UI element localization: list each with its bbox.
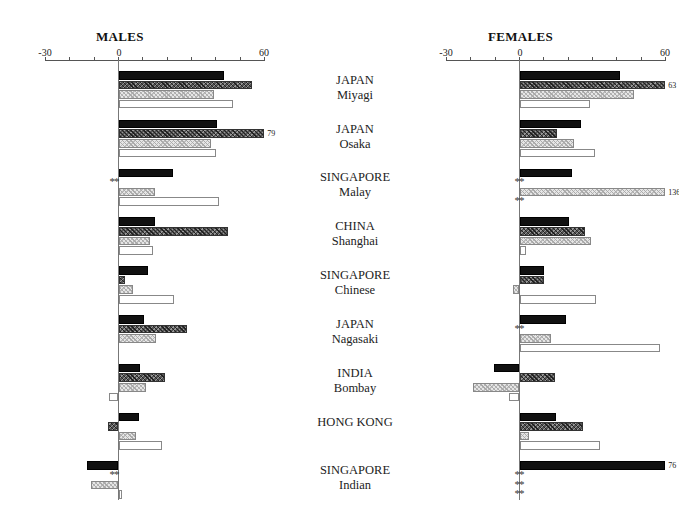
bar-value-label: 79 xyxy=(267,129,275,138)
axis-tick xyxy=(568,57,569,61)
bar-light-stippled xyxy=(119,139,211,148)
bar-dark-hatched xyxy=(520,129,558,138)
bar-light-stippled xyxy=(119,188,155,197)
bar-white xyxy=(119,100,233,109)
bar-dark-hatched xyxy=(108,422,119,431)
group-label: JAPANMiyagi xyxy=(290,73,420,103)
bar-black xyxy=(119,169,174,178)
females-zero-line xyxy=(519,60,520,500)
group-label: SINGAPOREChinese xyxy=(290,268,420,298)
bar-light-stippled xyxy=(520,139,575,148)
bar-black xyxy=(520,413,556,422)
bar-dark-hatched xyxy=(520,373,555,382)
bar-light-stippled xyxy=(119,432,136,441)
bar-light-stippled xyxy=(119,383,147,392)
females-panel-title: FEMALES xyxy=(488,29,553,45)
bar-light-stippled xyxy=(520,90,634,99)
axis-tick xyxy=(641,57,642,61)
males-x-axis xyxy=(45,60,265,61)
axis-tick xyxy=(191,57,192,61)
bar-white xyxy=(520,100,590,109)
bar-dark-hatched xyxy=(520,227,586,236)
axis-tick xyxy=(665,57,666,61)
bar-light-stippled xyxy=(520,188,666,197)
bar-black xyxy=(494,364,520,373)
group-label: CHINAShanghai xyxy=(290,219,420,249)
bar-white xyxy=(119,149,216,158)
bar-light-stippled xyxy=(91,481,119,490)
bar-white xyxy=(520,441,600,450)
females-x-axis xyxy=(446,60,666,61)
axis-tick xyxy=(215,57,216,61)
axis-tick xyxy=(543,57,544,61)
bar-dark-hatched xyxy=(119,81,253,90)
bar-light-stippled xyxy=(119,334,157,343)
bar-light-stippled xyxy=(520,432,530,441)
bar-black xyxy=(119,364,141,373)
axis-tick xyxy=(264,57,265,61)
bar-dark-hatched xyxy=(119,373,165,382)
bar-white xyxy=(119,441,163,450)
group-label: INDIABombay xyxy=(290,366,420,396)
bar-black xyxy=(119,315,145,324)
bar-light-stippled xyxy=(520,237,592,246)
bar-dark-hatched xyxy=(520,422,583,431)
bar-white xyxy=(509,393,520,402)
bar-white xyxy=(520,295,597,304)
bar-white xyxy=(119,490,123,499)
axis-tick xyxy=(616,57,617,61)
bar-light-stippled xyxy=(473,383,519,392)
bar-dark-hatched xyxy=(520,81,666,90)
bar-black xyxy=(87,461,119,470)
axis-tick xyxy=(592,57,593,61)
bar-white xyxy=(119,246,153,255)
axis-tick xyxy=(94,57,95,61)
bar-black xyxy=(520,315,566,324)
bar-black xyxy=(520,120,582,129)
bar-black xyxy=(119,120,217,129)
bar-white xyxy=(520,344,661,353)
bar-black xyxy=(520,217,570,226)
bar-dark-hatched xyxy=(119,227,228,236)
bar-white xyxy=(119,197,220,206)
axis-tick xyxy=(45,57,46,61)
group-label: SINGAPOREMalay xyxy=(290,170,420,200)
bar-light-stippled xyxy=(520,334,552,343)
bar-light-stippled xyxy=(119,90,215,99)
axis-tick xyxy=(446,57,447,61)
axis-tick xyxy=(69,57,70,61)
bar-black xyxy=(520,461,666,470)
bar-black xyxy=(520,266,544,275)
bar-light-stippled xyxy=(119,237,151,246)
bar-dark-hatched xyxy=(119,129,265,138)
bar-white xyxy=(520,149,595,158)
males-zero-line xyxy=(118,60,119,500)
bar-black xyxy=(119,266,148,275)
bar-black xyxy=(119,413,140,422)
bar-black xyxy=(520,71,621,80)
bar-dark-hatched xyxy=(520,276,544,285)
bar-dark-hatched xyxy=(119,325,187,334)
bar-black xyxy=(119,217,155,226)
bar-dark-hatched xyxy=(119,276,125,285)
axis-tick xyxy=(495,57,496,61)
group-label: JAPANNagasaki xyxy=(290,317,420,347)
group-label: HONG KONG xyxy=(290,415,420,430)
axis-tick xyxy=(142,57,143,61)
bar-value-label: 63 xyxy=(668,81,676,90)
males-panel-title: MALES xyxy=(96,29,144,45)
bar-value-label: 76 xyxy=(668,461,676,470)
group-label: JAPANOsaka xyxy=(290,122,420,152)
axis-tick xyxy=(167,57,168,61)
bar-black xyxy=(119,71,225,80)
axis-tick xyxy=(470,57,471,61)
axis-tick xyxy=(240,57,241,61)
bar-black xyxy=(520,169,572,178)
bar-white xyxy=(119,295,175,304)
bar-light-stippled xyxy=(119,285,134,294)
group-label: SINGAPOREIndian xyxy=(290,463,420,493)
bar-white xyxy=(520,246,526,255)
bar-value-label: 136 xyxy=(668,188,679,197)
